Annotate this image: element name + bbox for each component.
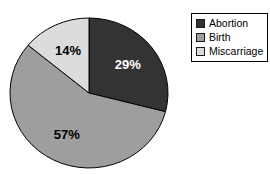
pie-value-label-abortion: 29% [115,57,141,72]
legend-swatch-miscarriage [196,47,205,56]
legend-swatch-birth [196,33,205,42]
legend-swatch-abortion [196,19,205,28]
pie-value-label-miscarriage: 14% [55,43,81,58]
legend: AbortionBirthMiscarriage [191,13,268,62]
pie-value-label-birth: 57% [54,127,80,142]
legend-label-abortion: Abortion [209,17,248,30]
pie-slices [10,18,168,168]
legend-item-abortion: Abortion [196,17,263,30]
legend-label-miscarriage: Miscarriage [209,45,263,58]
legend-item-birth: Birth [196,31,263,44]
pie-chart-figure: 29%57%14% AbortionBirthMiscarriage [0,0,270,175]
legend-label-birth: Birth [209,31,231,44]
legend-item-miscarriage: Miscarriage [196,45,263,58]
